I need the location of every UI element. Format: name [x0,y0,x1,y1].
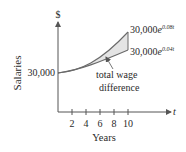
annotation-line1: total wage [96,69,138,80]
annotation-arrow [106,57,113,69]
y-tick-label-30000: 30,000 [28,67,56,78]
curve-label-0.04t: 30,000e0.04t [130,46,174,57]
x-tick-label: 4 [84,118,89,129]
x-axis-label: Years [92,132,115,143]
x-tick-label: 6 [98,118,103,129]
y-axis-label: Salaries [11,56,23,91]
annotation-line2: difference [99,82,140,93]
curve-label-0.08t: 30,000e0.08t [130,24,174,35]
x-tick-label: 10 [123,118,133,129]
chart: 2 4 6 8 10 $ t 30,000 Salaries Years 30,… [0,0,186,152]
y-axis-symbol: $ [56,9,61,20]
x-tick-label: 2 [70,118,75,129]
wage-difference-region [58,32,128,73]
x-tick-label: 8 [112,118,117,129]
x-axis-symbol: t [173,106,176,117]
